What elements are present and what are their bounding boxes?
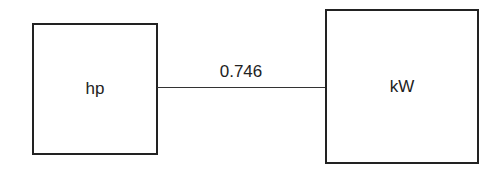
node-kw: kW <box>325 9 479 164</box>
edge-hp-kw <box>157 87 325 88</box>
node-hp: hp <box>32 23 158 155</box>
node-hp-label: hp <box>86 79 105 99</box>
node-kw-label: kW <box>390 77 415 97</box>
edge-label-conversion-factor: 0.746 <box>157 62 325 82</box>
